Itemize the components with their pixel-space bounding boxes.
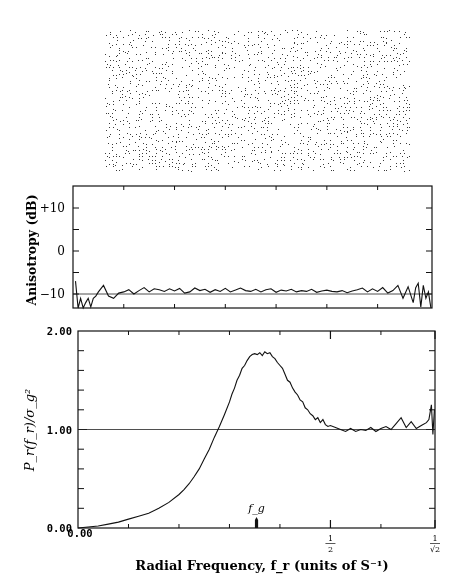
- anisotropy-frame: [73, 186, 432, 308]
- radial-power-xtick-fraction: 1√2: [430, 534, 440, 554]
- anisotropy-ytick-label: 0: [57, 244, 65, 258]
- fg-arrow-icon: [255, 517, 258, 528]
- radial-power-xtick-labels: 0.00121√2: [67, 527, 440, 554]
- anisotropy-ytick-labels: +100−10: [40, 201, 65, 301]
- radial-power-ytick-labels: 2.001.000.00: [47, 325, 72, 534]
- anisotropy-ticks: [73, 186, 432, 308]
- radial-power-xtick-fraction: 12: [325, 534, 335, 554]
- anisotropy-ytick-label: −10: [40, 287, 65, 301]
- anisotropy-panel: +100−10 Anisotropy (dB): [24, 186, 432, 308]
- radial-power-ylabel: P_r(f_r)/σ_g²: [22, 389, 37, 472]
- fg-label: f_g: [247, 502, 265, 515]
- radial-power-ytick-label: 2.00: [47, 325, 72, 337]
- fraction-numerator: 1: [328, 534, 333, 543]
- anisotropy-series-line: [76, 281, 431, 308]
- fg-annotation: f_g: [247, 502, 265, 528]
- radial-power-panel: 2.001.000.00 0.00121√2 f_g P_r(f_r)/σ_g²…: [22, 325, 440, 574]
- fraction-denominator: √2: [430, 545, 440, 554]
- radial-power-xtick-label: 0.00: [67, 527, 92, 539]
- fraction-denominator: 2: [328, 545, 333, 554]
- anisotropy-ylabel: Anisotropy (dB): [24, 194, 39, 306]
- figure: +100−10 Anisotropy (dB) 2.001.000.00 0.0…: [0, 0, 461, 587]
- radial-power-xlabel: Radial Frequency, f_r (units of S⁻¹): [135, 558, 388, 574]
- radial-power-ytick-label: 1.00: [47, 424, 72, 436]
- anisotropy-ytick-label: +10: [40, 201, 65, 215]
- fraction-numerator: 1: [432, 534, 437, 543]
